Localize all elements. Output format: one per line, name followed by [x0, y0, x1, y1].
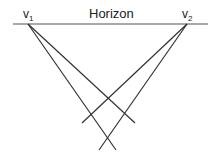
perspective-line [28, 24, 116, 150]
vanishing-point-1-label: v1 [23, 8, 33, 20]
horizon-label: Horizon [89, 7, 134, 20]
diagram-canvas [0, 0, 218, 157]
perspective-line [28, 24, 135, 123]
vanishing-point-2-label: v2 [182, 8, 192, 20]
perspective-line [99, 24, 187, 150]
perspective-line [82, 24, 187, 123]
perspective-diagram: Horizon v1 v2 [0, 0, 218, 157]
